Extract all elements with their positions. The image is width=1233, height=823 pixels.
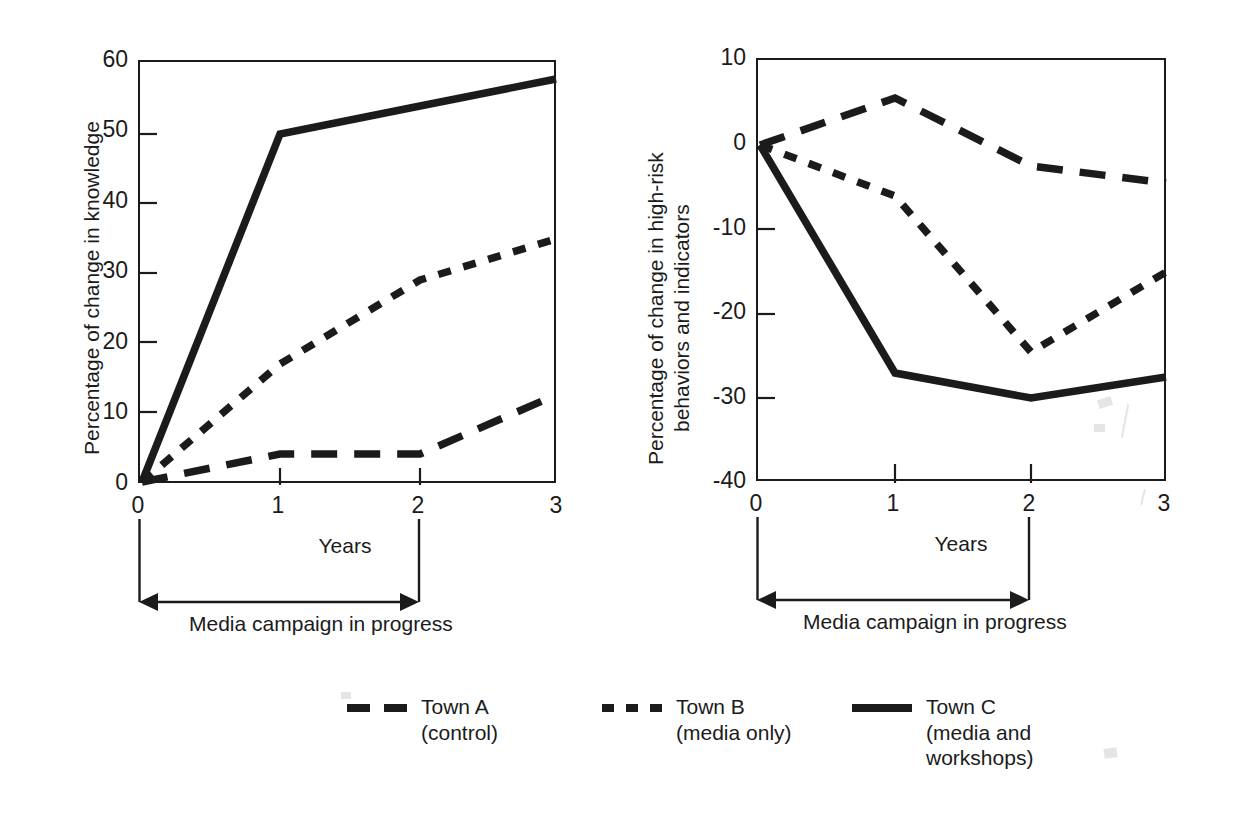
plot-area-right xyxy=(756,58,1166,481)
legend-swatch-long-dash-icon xyxy=(346,697,408,719)
figure-root: Percentage of change in knowledge 0 10 2… xyxy=(0,0,1233,823)
scan-artifact xyxy=(341,692,351,699)
chart-panel-right: Percentage of change in high-risk behavi… xyxy=(616,0,1233,680)
x-axis-title-right: Years xyxy=(906,532,1016,556)
y-tick-label-40: 40 xyxy=(78,189,128,212)
series-layer-left xyxy=(140,62,558,485)
campaign-caption-right: Media campaign in progress xyxy=(803,609,983,635)
y-tick-label-0: 0 xyxy=(686,131,746,154)
x-tick-label-0: 0 xyxy=(736,492,776,515)
chart-panel-left: Percentage of change in knowledge 0 10 2… xyxy=(0,0,616,680)
y-tick-label-50: 50 xyxy=(78,118,128,141)
legend-item-town-a[interactable]: Town A (control) xyxy=(346,694,498,745)
series-line-town-a xyxy=(142,395,556,482)
legend-label-town-b: Town B (media only) xyxy=(676,694,792,745)
y-tick-label-neg10: -10 xyxy=(686,216,746,239)
legend-item-town-b[interactable]: Town B (media only) xyxy=(601,694,792,745)
y-tick-label-0: 0 xyxy=(78,471,128,494)
series-line-town-b xyxy=(142,239,556,482)
x-tick-label-3: 3 xyxy=(536,494,576,517)
legend-label-town-a: Town A (control) xyxy=(421,694,498,745)
campaign-arrowhead-right xyxy=(400,593,419,611)
y-axis-title-right-line1: Percentage of change in high-risk xyxy=(644,152,669,465)
legend-swatch-short-dash-icon xyxy=(601,697,663,719)
campaign-arrowhead-right xyxy=(1010,591,1029,609)
chart-legend: Town A (control) Town B (media only) Tow… xyxy=(0,686,1233,823)
series-layer-right xyxy=(758,60,1168,483)
x-tick-label-1: 1 xyxy=(873,492,913,515)
y-tick-label-neg40: -40 xyxy=(686,469,746,492)
legend-label-town-c: Town C (media and workshops) xyxy=(926,694,1033,771)
campaign-arrowhead-left xyxy=(757,591,776,609)
x-tick-label-1: 1 xyxy=(258,494,298,517)
legend-item-town-c[interactable]: Town C (media and workshops) xyxy=(851,694,1033,771)
campaign-caption-left: Media campaign in progress xyxy=(189,611,369,637)
y-tick-label-20: 20 xyxy=(78,330,128,353)
plot-area-left xyxy=(138,60,556,483)
x-axis-title-left: Years xyxy=(290,534,400,558)
x-tick-label-2: 2 xyxy=(398,494,438,517)
y-tick-label-30: 30 xyxy=(78,259,128,282)
scan-artifact xyxy=(1094,424,1105,432)
y-tick-label-neg20: -20 xyxy=(686,300,746,323)
x-tick-label-0: 0 xyxy=(118,494,158,517)
y-tick-label-60: 60 xyxy=(78,48,128,71)
x-tick-label-2: 2 xyxy=(1009,492,1049,515)
campaign-arrowhead-left xyxy=(139,593,158,611)
series-line-town-a xyxy=(760,98,1166,183)
x-tick-label-3: 3 xyxy=(1144,492,1184,515)
scan-artifact xyxy=(1103,747,1117,759)
y-tick-label-10: 10 xyxy=(686,46,746,69)
y-tick-label-neg30: -30 xyxy=(686,385,746,408)
legend-swatch-solid-icon xyxy=(851,697,913,719)
y-tick-label-10: 10 xyxy=(78,400,128,423)
